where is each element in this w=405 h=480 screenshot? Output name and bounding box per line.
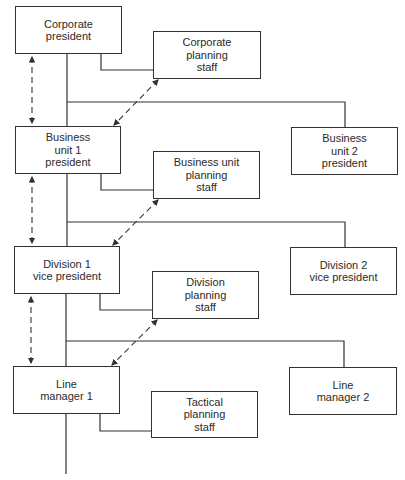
- label: Business unit 1 president: [45, 131, 90, 169]
- label: Division planning staff: [185, 276, 227, 314]
- branch-to-lm2: [66, 341, 344, 367]
- elbow-div-staff: [100, 294, 152, 310]
- box-division-planning-staff: Division planning staff: [152, 271, 259, 319]
- label: Line manager 2: [317, 379, 370, 404]
- box-line-manager-1: Line manager 1: [13, 366, 120, 414]
- label: Corporate president: [44, 18, 93, 43]
- box-division-1-vice-president: Division 1 vice president: [14, 246, 120, 294]
- label: Corporate planning staff: [183, 36, 232, 74]
- box-business-unit-1-president: Business unit 1 president: [15, 126, 121, 174]
- branch-to-bu2: [67, 102, 345, 127]
- label: Line manager 1: [40, 378, 93, 403]
- box-line-manager-2: Line manager 2: [289, 367, 397, 415]
- box-business-unit-planning-staff: Business unit planning staff: [153, 151, 260, 199]
- branch-to-div2: [67, 222, 345, 247]
- label: Division 1 vice president: [33, 258, 101, 283]
- box-business-unit-2-president: Business unit 2 president: [291, 127, 398, 175]
- label: Tactical planning staff: [184, 396, 226, 434]
- box-corporate-president: Corporate president: [15, 6, 122, 54]
- label: Business unit 2 president: [322, 132, 367, 170]
- label: Division 2 vice president: [310, 259, 378, 284]
- box-corporate-planning-staff: Corporate planning staff: [153, 31, 261, 79]
- elbow-bu-staff: [101, 174, 153, 190]
- label: Business unit planning staff: [174, 156, 239, 194]
- box-tactical-planning-staff: Tactical planning staff: [151, 391, 258, 438]
- elbow-corporate-staff: [101, 54, 153, 70]
- box-division-2-vice-president: Division 2 vice president: [290, 247, 397, 295]
- elbow-tactical-staff: [100, 414, 151, 431]
- staff-arrow-3: [112, 320, 157, 365]
